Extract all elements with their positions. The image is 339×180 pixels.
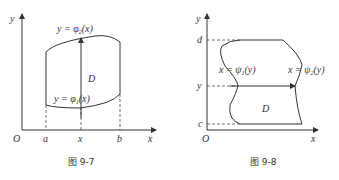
a-label: a [43,133,48,144]
region-label: D [87,73,96,84]
x-tick-label: x [77,133,83,144]
upper-curve-label: y = φ2(x) [56,23,93,35]
region-label: D [261,103,270,114]
lower-curve-label: y = φ1(x) [53,93,90,105]
caption: 图 9-8 [250,157,277,167]
left-curve-label: x = ψ1(y) [218,64,256,76]
y-axis-label: y [195,13,201,24]
origin-label: O [202,133,209,144]
figure-9-8: y x O d y c D x = ψ1(y) x = ψ2(y) 图 9-8 [195,13,325,167]
origin-label: O [13,133,20,144]
right-curve-label: x = ψ2(y) [287,64,325,76]
caption: 图 9-7 [68,157,95,167]
y-tick-label: y [196,80,202,91]
y-axis-label: y [9,13,15,24]
x-axis-label: x [147,133,153,144]
figures-canvas: y x O a x b D y = φ2(x) y = φ1(x) 图 9-7 … [0,0,339,180]
figure-9-7: y x O a x b D y = φ2(x) y = φ1(x) 图 9-7 [9,13,156,167]
d-label: d [197,34,203,45]
c-label: c [198,118,203,129]
x-axis-label: x [310,133,316,144]
b-label: b [117,133,122,144]
